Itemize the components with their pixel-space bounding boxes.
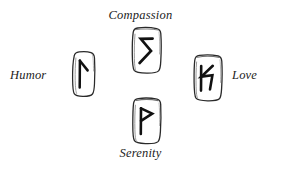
rune-label-serenity: Serenity — [0, 146, 281, 161]
rune-label-humor: Humor — [10, 68, 46, 83]
rune-stone-compassion — [128, 26, 166, 76]
rune-stone-outline — [132, 28, 161, 74]
rune-label-compassion: Compassion — [0, 8, 281, 23]
rune-diagram: Humor Compassion Love Serenity — [0, 0, 281, 173]
rune-stone-love — [190, 53, 226, 103]
rune-stone-serenity — [128, 96, 166, 146]
rune-label-love: Love — [232, 68, 257, 83]
rune-stone-humor — [66, 50, 100, 98]
rune-stone-outline — [133, 98, 161, 144]
